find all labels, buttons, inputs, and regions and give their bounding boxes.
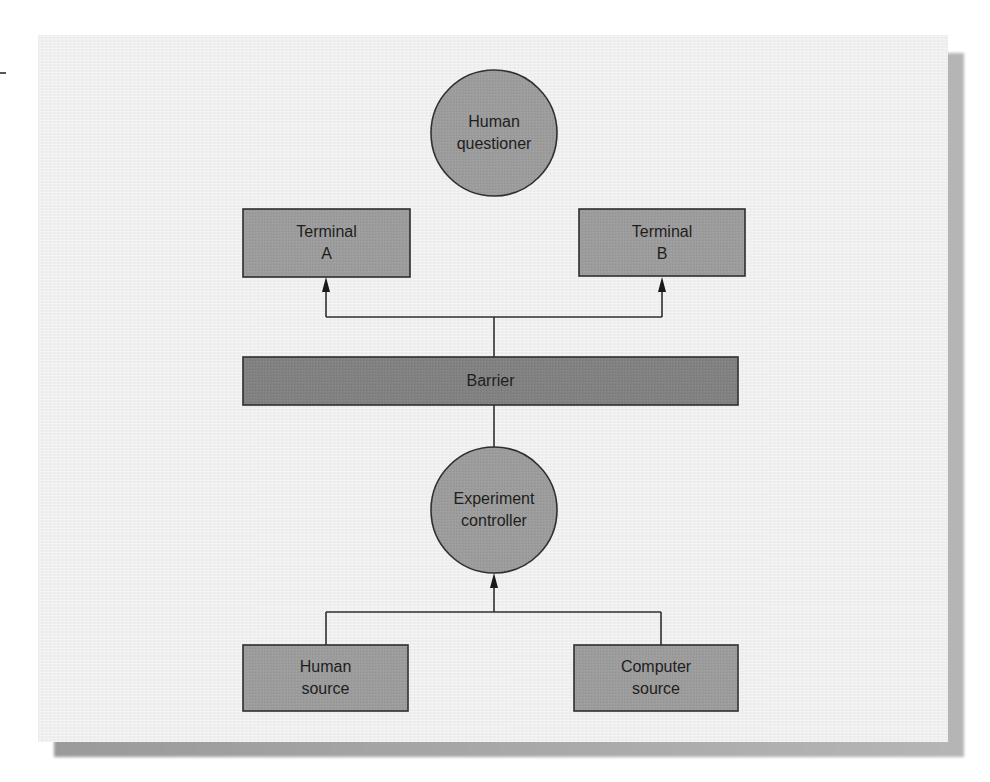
node-human-questioner <box>431 70 557 196</box>
connector-barrier-to-terminals <box>326 290 662 357</box>
arrow-up-icon <box>322 277 330 292</box>
diagram-canvas <box>0 0 990 782</box>
arrow-up-icon <box>658 277 666 292</box>
node-terminal-b <box>579 209 745 276</box>
node-terminal-a <box>243 209 410 277</box>
node-barrier <box>243 357 738 405</box>
node-human-source <box>243 645 408 711</box>
arrow-up-icon <box>490 573 498 588</box>
node-experiment-controller <box>431 447 557 573</box>
figure-stage: Human questioner Terminal A Terminal B B… <box>0 0 990 782</box>
connector-sources-to-controller <box>326 586 661 645</box>
node-computer-source <box>574 645 738 711</box>
